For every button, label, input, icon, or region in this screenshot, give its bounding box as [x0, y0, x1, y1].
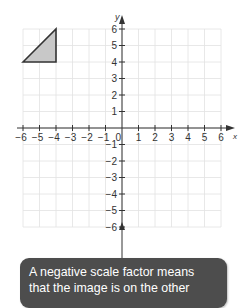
y-tick-label: 6 [111, 24, 117, 35]
y-tick-label: −4 [106, 189, 118, 200]
x-tick-label: 4 [185, 132, 191, 143]
origin-label: 0 [115, 132, 121, 143]
x-tick-label: 3 [169, 132, 175, 143]
callout-line-2: that the image is on the other [29, 281, 219, 297]
x-tick-label: 5 [202, 132, 208, 143]
x-tick-label: 6 [218, 132, 224, 143]
x-tick-label: −2 [81, 132, 93, 143]
y-tick-label: −6 [106, 222, 118, 233]
callout-box: A negative scale factor means that the i… [20, 258, 227, 308]
y-tick-label: 5 [111, 40, 117, 51]
x-axis-label: x [232, 132, 238, 141]
y-tick-label: −3 [106, 172, 118, 183]
x-tick-label: −5 [32, 132, 44, 143]
y-tick-label: −5 [106, 205, 118, 216]
y-tick-label: 2 [111, 90, 117, 101]
x-tick-label: −4 [48, 132, 60, 143]
y-tick-label: 4 [111, 57, 117, 68]
y-tick-label: −2 [106, 156, 118, 167]
x-tick-label: −6 [15, 132, 27, 143]
x-tick-label: 2 [152, 132, 158, 143]
y-tick-label: 1 [111, 106, 117, 117]
y-tick-label: 3 [111, 73, 117, 84]
x-tick-label: −3 [65, 132, 77, 143]
y-axis-label: y [114, 12, 120, 22]
x-tick-label: 1 [136, 132, 142, 143]
callout-line-1: A negative scale factor means [29, 265, 219, 281]
